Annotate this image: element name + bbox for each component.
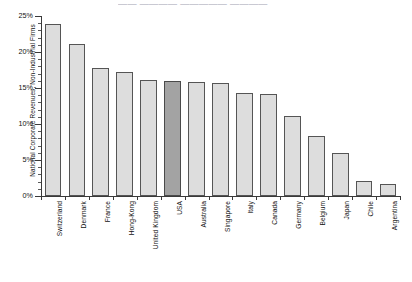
bar-canada — [260, 94, 277, 196]
y-tick-label: 0% — [23, 191, 33, 200]
x-label-japan: Japan — [343, 201, 350, 219]
x-tick — [89, 196, 90, 200]
y-tick-label: 10% — [19, 119, 33, 128]
y-tick-label: 25% — [19, 11, 33, 20]
bar-denmark — [69, 44, 86, 196]
x-tick — [137, 196, 138, 200]
x-tick — [304, 196, 305, 200]
bar-belgium — [308, 136, 325, 196]
bar-chart: —— ———— ————— ———— National Corporate Re… — [0, 0, 412, 282]
x-label-usa: USA — [176, 201, 183, 215]
x-axis-line — [41, 196, 401, 197]
x-tick — [400, 196, 401, 200]
x-label-denmark: Denmark — [80, 201, 87, 228]
x-label-hong-kong: Hong-Kong — [128, 201, 135, 235]
x-tick — [161, 196, 162, 200]
x-tick — [41, 196, 42, 200]
bar-singapore — [212, 83, 229, 196]
x-label-chile: Chile — [367, 201, 374, 217]
x-tick — [328, 196, 329, 200]
x-label-france: France — [104, 201, 111, 222]
bar-hong-kong — [116, 72, 133, 196]
x-tick — [280, 196, 281, 200]
bar-chile — [356, 181, 373, 196]
x-tick — [256, 196, 257, 200]
bar-usa — [164, 81, 181, 196]
x-tick — [376, 196, 377, 200]
x-label-australia: Australia — [200, 201, 207, 228]
x-tick — [65, 196, 66, 200]
bar-germany — [284, 116, 301, 196]
bar-australia — [188, 82, 205, 196]
clipped-title: —— ———— ————— ———— — [118, 0, 303, 8]
x-label-canada: Canada — [271, 201, 278, 225]
bar-france — [92, 68, 109, 196]
x-tick — [209, 196, 210, 200]
y-tick-label: 5% — [23, 155, 33, 164]
x-tick — [232, 196, 233, 200]
x-tick — [352, 196, 353, 200]
x-tick — [185, 196, 186, 200]
y-axis-title: National Corporate Revenues, Non-Industr… — [29, 6, 36, 196]
bar-italy — [236, 93, 253, 196]
bar-japan — [332, 153, 349, 196]
x-label-belgium: Belgium — [319, 201, 326, 226]
y-tick-label: 15% — [19, 83, 33, 92]
x-label-argentina: Argentina — [391, 201, 398, 230]
x-label-germany: Germany — [295, 201, 302, 229]
plot-area — [41, 16, 400, 196]
x-label-united-kingdom: United Kingdom — [152, 201, 159, 249]
x-tick — [113, 196, 114, 200]
bar-switzerland — [45, 24, 62, 196]
x-label-singapore: Singapore — [224, 201, 231, 232]
bar-argentina — [380, 184, 397, 196]
x-label-italy: Italy — [247, 201, 254, 214]
bar-united-kingdom — [140, 80, 157, 196]
x-label-switzerland: Switzerland — [56, 201, 63, 236]
y-tick-label: 20% — [19, 47, 33, 56]
